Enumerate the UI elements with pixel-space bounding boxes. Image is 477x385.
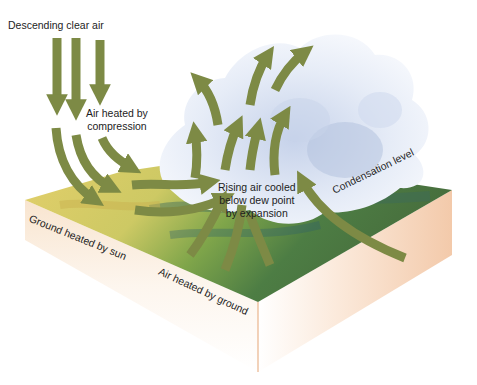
- label-line: Rising air cooled: [218, 181, 296, 194]
- label-line: below dew point: [218, 194, 296, 207]
- label-rising-air: Rising air cooled below dew point by exp…: [218, 181, 296, 220]
- label-line: by expansion: [218, 207, 296, 220]
- label-descending-air: Descending clear air: [8, 19, 104, 32]
- label-air-heated-compression: Air heated by compression: [86, 107, 148, 133]
- label-line: Air heated by: [86, 107, 148, 120]
- convection-diagram: Descending clear air Air heated by compr…: [0, 0, 477, 385]
- label-line: compression: [86, 120, 148, 133]
